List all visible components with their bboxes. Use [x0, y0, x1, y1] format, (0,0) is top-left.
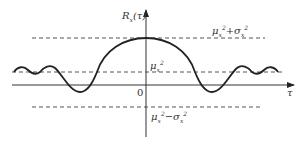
- mean-square-label: μx2: [150, 60, 164, 73]
- lower-bound-label: μx2−σx2: [151, 111, 187, 124]
- origin-label: 0: [137, 88, 143, 98]
- y-axis-label: Rx(τ): [122, 11, 146, 23]
- upper-bound-label: μx2+σx2: [212, 25, 248, 38]
- x-axis-label: τ: [287, 88, 293, 98]
